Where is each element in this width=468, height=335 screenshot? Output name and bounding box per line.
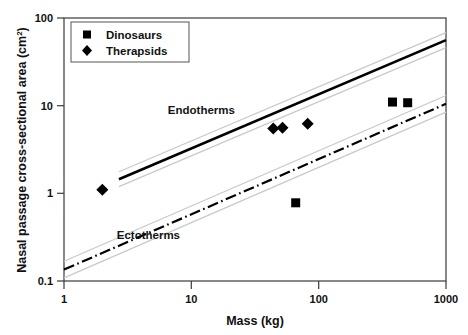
y-tick-label-100: 100	[35, 12, 53, 24]
nasal-passage-scatter-chart: 100 10 1 0.1 1 10 100 1000 Mass (kg) Nas…	[0, 0, 468, 335]
svg-text:Nasal passage cross-sectional: Nasal passage cross-sectional area (cm2)	[15, 27, 29, 273]
y-axis-title-tail: )	[15, 27, 29, 31]
figure-container: 100 10 1 0.1 1 10 100 1000 Mass (kg) Nas…	[0, 0, 468, 335]
data-point-dinosaurs	[291, 198, 300, 207]
x-tick-label-1: 1	[61, 293, 67, 305]
data-point-dinosaurs	[403, 98, 412, 107]
x-tick-label-1000: 1000	[434, 293, 458, 305]
legend-label-therapsids: Therapsids	[106, 45, 167, 57]
x-axis-title: Mass (kg)	[226, 314, 284, 328]
legend: Dinosaurs Therapsids	[71, 22, 189, 62]
y-tick-label-0-1: 0.1	[38, 275, 53, 287]
x-tick-label-10: 10	[185, 293, 197, 305]
annotation-ectotherms: Ectotherms	[117, 229, 180, 241]
y-axis-title-main: Nasal passage cross-sectional area (cm	[15, 36, 29, 273]
data-point-dinosaurs	[388, 98, 397, 107]
y-axis-ticks	[57, 18, 64, 281]
legend-label-dinosaurs: Dinosaurs	[106, 29, 162, 41]
y-tick-label-10: 10	[41, 100, 53, 112]
legend-marker-square-icon	[83, 31, 91, 39]
y-axis-title: Nasal passage cross-sectional area (cm2)	[15, 27, 29, 273]
x-tick-label-100: 100	[310, 293, 328, 305]
x-axis-ticks	[64, 281, 446, 289]
y-tick-label-1: 1	[47, 187, 53, 199]
annotation-endotherms: Endotherms	[168, 104, 235, 116]
